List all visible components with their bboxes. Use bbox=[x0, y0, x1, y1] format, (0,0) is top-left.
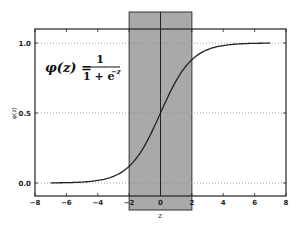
x-axis-label: z bbox=[158, 212, 162, 220]
y-tick-label: 0.5 bbox=[19, 110, 32, 118]
y-tick-label: 0.0 bbox=[19, 180, 32, 188]
x-tick-labels: −8−6−4−202468 bbox=[30, 199, 289, 207]
x-tick-label: 6 bbox=[252, 199, 257, 207]
formula-denominator: 1 + e bbox=[83, 70, 115, 83]
x-tick-label: 8 bbox=[284, 199, 289, 207]
formula-numerator: 1 bbox=[96, 53, 104, 66]
sigmoid-chart: −8−6−4−202468 0.00.51.0 z φ(z) φ(z) = 1 … bbox=[0, 0, 299, 227]
y-tick-label: 1.0 bbox=[19, 40, 32, 48]
x-tick-label: 2 bbox=[189, 199, 194, 207]
x-tick-label: −4 bbox=[92, 199, 103, 207]
x-tick-label: 4 bbox=[221, 199, 226, 207]
formula-exponent: −z bbox=[111, 67, 122, 76]
x-tick-label: −8 bbox=[30, 199, 41, 207]
y-tick-labels: 0.00.51.0 bbox=[19, 40, 32, 188]
formula-annotation: φ(z) = 1 1 + e −z bbox=[45, 53, 122, 83]
y-axis-label: φ(z) bbox=[10, 107, 18, 119]
x-tick-label: 0 bbox=[158, 199, 163, 207]
x-tick-label: −6 bbox=[61, 199, 72, 207]
x-tick-label: −2 bbox=[124, 199, 135, 207]
